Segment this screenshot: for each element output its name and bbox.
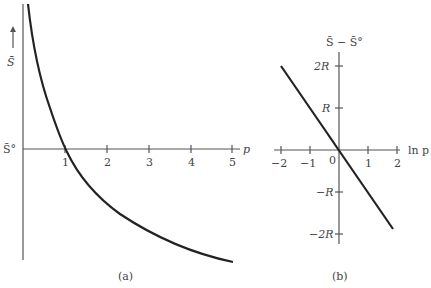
tick-label: 5 [229, 156, 236, 169]
entropy-curve [28, 4, 233, 262]
tick-label: −1 [300, 157, 316, 170]
tick-label: 2 [394, 157, 401, 170]
caption-a: (a) [118, 270, 133, 283]
tick-label: 1 [62, 156, 69, 169]
ref-label-a: S̄° [3, 143, 16, 156]
tick-label: 2R [313, 60, 329, 73]
arrowhead-icon [10, 26, 16, 32]
panel-a: S̄ S̄° 1 2 3 4 5 p (a) [3, 4, 250, 283]
panel-b: S̄ − S̄° 2R R −R −2R −2 −1 0 1 2 ln p (b… [271, 36, 429, 283]
y-label-b: S̄ − S̄° [326, 36, 363, 49]
tick-label: 4 [188, 156, 195, 169]
tick-label: −2R [309, 228, 334, 241]
figure: S̄ S̄° 1 2 3 4 5 p (a) S̄ − S̄° [0, 0, 431, 288]
linear-entropy-line [281, 66, 393, 229]
x-label-a: p [243, 143, 250, 156]
x-label-b: ln p [408, 144, 429, 157]
caption-b: (b) [332, 270, 348, 283]
tick-label: R [321, 102, 330, 115]
tick-label: 0 [329, 154, 336, 167]
tick-label: 3 [146, 156, 153, 169]
tick-label: 2 [104, 156, 111, 169]
tick-label: 1 [365, 157, 372, 170]
tick-label: −R [316, 186, 334, 199]
tick-label: −2 [271, 157, 287, 170]
y-label-a: S̄ [7, 56, 15, 69]
